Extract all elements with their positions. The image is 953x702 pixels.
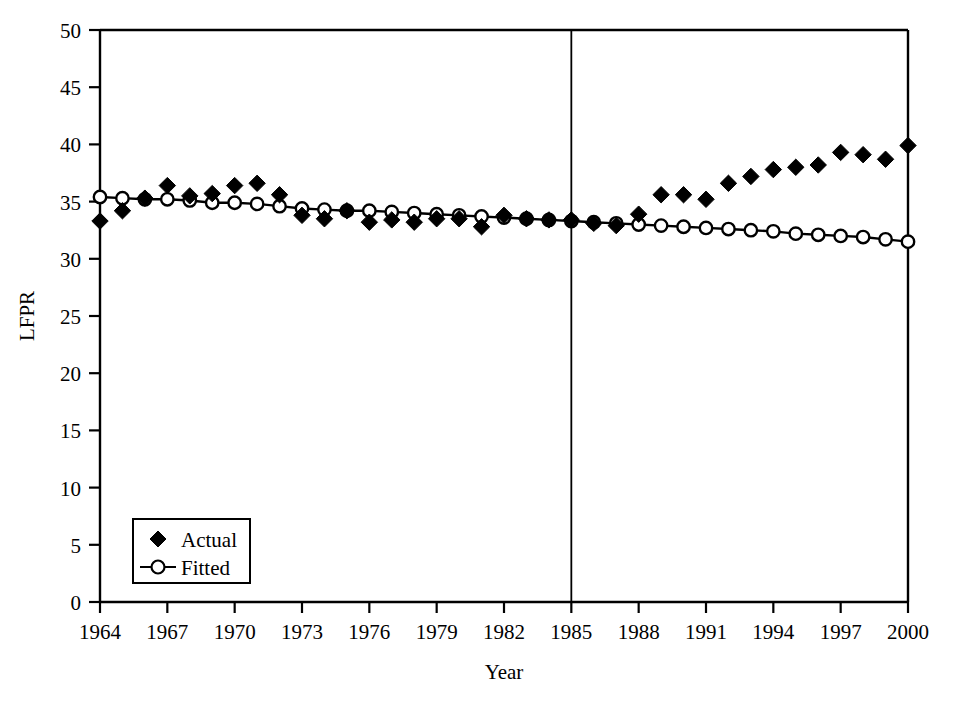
x-tick-label: 1967 [146, 620, 188, 644]
fitted-data-point [677, 221, 689, 233]
x-tick-label: 1973 [281, 620, 323, 644]
y-tick-label: 10 [60, 477, 81, 501]
x-axis-ticks: 1964196719701973197619791982198519881991… [79, 602, 929, 644]
legend-label-actual: Actual [181, 528, 237, 552]
x-tick-label: 1991 [685, 620, 727, 644]
fitted-data-point [94, 191, 106, 203]
x-tick-label: 2000 [887, 620, 929, 644]
x-tick-label: 1985 [550, 620, 592, 644]
fitted-data-point [834, 230, 846, 242]
y-tick-label: 25 [60, 305, 81, 329]
y-tick-label: 30 [60, 248, 81, 272]
y-tick-label: 40 [60, 133, 81, 157]
fitted-data-point [161, 193, 173, 205]
x-tick-label: 1964 [79, 620, 122, 644]
x-tick-label: 1997 [820, 620, 862, 644]
y-tick-label: 5 [71, 534, 82, 558]
y-axis-ticks: 05101520253035404550 [60, 19, 100, 615]
y-tick-label: 15 [60, 419, 81, 443]
fitted-data-point [812, 229, 824, 241]
open-circle-icon [152, 561, 165, 574]
y-axis-title: LFPR [15, 291, 39, 341]
fitted-data-point [857, 231, 869, 243]
x-axis-title: Year [485, 660, 524, 684]
plot-frame [100, 30, 908, 602]
fitted-data-point [700, 222, 712, 234]
fitted-data-point [251, 198, 263, 210]
plot-background [100, 30, 908, 602]
x-tick-label: 1994 [752, 620, 795, 644]
x-tick-label: 1976 [348, 620, 390, 644]
fitted-data-point [655, 219, 667, 231]
fitted-data-point [767, 225, 779, 237]
y-tick-label: 35 [60, 191, 81, 215]
legend-label-fitted: Fitted [181, 556, 231, 580]
x-tick-label: 1979 [416, 620, 458, 644]
fitted-data-point [745, 224, 757, 236]
chart-container: 05101520253035404550 1964196719701973197… [0, 0, 953, 702]
fitted-data-point [228, 197, 240, 209]
y-tick-label: 0 [71, 591, 82, 615]
x-tick-label: 1970 [214, 620, 256, 644]
lfpr-actual-vs-fitted-line-chart: 05101520253035404550 1964196719701973197… [0, 0, 953, 702]
y-tick-label: 45 [60, 76, 81, 100]
fitted-data-point [879, 233, 891, 245]
legend: Actual Fitted [133, 519, 250, 583]
x-tick-label: 1988 [618, 620, 660, 644]
fitted-data-point [790, 227, 802, 239]
y-tick-label: 50 [60, 19, 81, 43]
x-tick-label: 1982 [483, 620, 525, 644]
fitted-data-point [902, 235, 914, 247]
y-tick-label: 20 [60, 362, 81, 386]
fitted-data-point [722, 223, 734, 235]
